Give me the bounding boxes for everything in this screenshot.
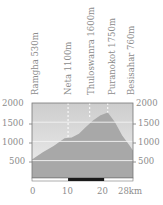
elevation-profile-chart [0,0,163,205]
scale-bar [68,178,104,181]
